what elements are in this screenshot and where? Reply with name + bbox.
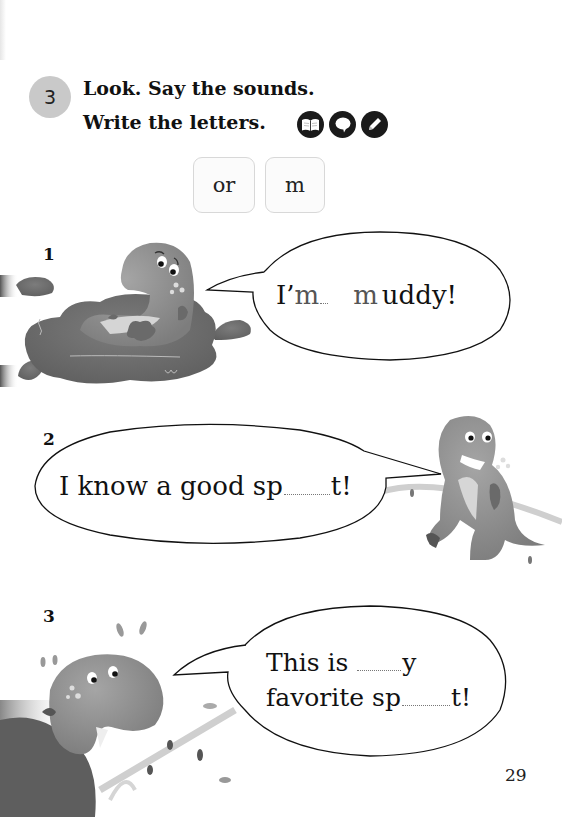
- sentence-text: m: [353, 280, 378, 310]
- item-1-sentence: I’mmuddy!: [276, 282, 457, 308]
- item-3-sentence-line-1: This is y: [266, 650, 416, 675]
- item-number-3: 3: [43, 606, 55, 626]
- sentence-text: I’: [276, 280, 295, 310]
- answer-blank-3b[interactable]: [402, 704, 450, 706]
- sentence-text: y: [402, 648, 416, 677]
- item-number-1: 1: [43, 244, 55, 264]
- sentence-text: m: [295, 280, 320, 310]
- item-3-sentence-line-2: favorite spt!: [266, 685, 471, 710]
- page-number: 29: [505, 765, 527, 785]
- sentence-text: This is: [266, 648, 356, 677]
- sentence-text: favorite sp: [266, 683, 401, 712]
- sentence-text: t!: [451, 683, 471, 712]
- answer-blank-1a[interactable]: [320, 302, 328, 304]
- item-number-2: 2: [43, 429, 55, 449]
- item-1-illustration: [0, 243, 251, 387]
- answer-blank-2[interactable]: [284, 493, 330, 495]
- sentence-text: I know a good sp: [59, 471, 283, 501]
- item-2-illustration: [380, 416, 562, 564]
- item-3-illustration: [0, 620, 235, 817]
- sentence-text: t!: [331, 471, 352, 501]
- item-2-sentence: I know a good spt!: [59, 473, 352, 499]
- sentence-text: uddy!: [382, 280, 457, 310]
- speech-bubble-3: [174, 606, 506, 756]
- answer-blank-3a[interactable]: [357, 669, 401, 671]
